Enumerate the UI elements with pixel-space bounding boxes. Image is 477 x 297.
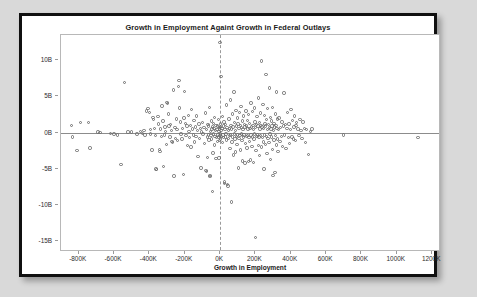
- scatter-point: [205, 170, 208, 173]
- scatter-point: [211, 151, 214, 154]
- scatter-point: [196, 155, 199, 158]
- scatter-point: [260, 59, 263, 62]
- scatter-point: [237, 166, 240, 169]
- scatter-point: [252, 137, 255, 140]
- scatter-point: [295, 121, 298, 124]
- scatter-point: [201, 132, 204, 135]
- chart-frame: Growth in Employment Againt Growth in Fe…: [19, 13, 437, 277]
- x-tick-label: -600K: [104, 255, 121, 262]
- scatter-point: [175, 128, 178, 131]
- x-tick-mark: [184, 251, 185, 254]
- x-axis-ticks: -800K-600K-400K-200K0K200K400K600K800K10…: [60, 251, 440, 265]
- scatter-point: [152, 118, 155, 121]
- scatter-point: [203, 142, 206, 145]
- scatter-point: [304, 141, 307, 144]
- scatter-point: [219, 75, 222, 78]
- scatter-point: [150, 148, 153, 151]
- scatter-point: [274, 112, 277, 115]
- x-tick-label: 400K: [282, 255, 297, 262]
- scatter-point: [163, 133, 166, 136]
- y-tick-label: -15B: [39, 237, 53, 244]
- scatter-point: [275, 143, 278, 146]
- scatter-point: [254, 236, 257, 239]
- scatter-point: [273, 171, 276, 174]
- y-tick-mark: [55, 204, 58, 205]
- scatter-point: [79, 121, 82, 124]
- scatter-point: [176, 139, 179, 142]
- y-tick-mark: [55, 240, 58, 241]
- scatter-point: [182, 116, 185, 119]
- scatter-point: [294, 139, 297, 142]
- y-tick-mark: [55, 132, 58, 133]
- scatter-point: [199, 166, 202, 169]
- scatter-point: [235, 143, 238, 146]
- scatter-point: [271, 148, 274, 151]
- scatter-point: [154, 134, 157, 137]
- scatter-point: [238, 111, 241, 114]
- scatter-point: [178, 106, 181, 109]
- x-tick-label: -800K: [69, 255, 86, 262]
- scatter-point: [265, 152, 268, 155]
- scatter-point: [342, 133, 345, 136]
- x-tick-mark: [360, 251, 361, 254]
- scatter-point: [263, 114, 266, 117]
- scatter-point: [226, 184, 229, 187]
- scatter-point: [236, 116, 239, 119]
- scatter-point: [416, 136, 419, 139]
- x-tick-mark: [219, 251, 220, 254]
- scatter-point: [70, 124, 73, 127]
- scatter-point: [192, 119, 195, 122]
- scatter-point: [261, 103, 264, 106]
- x-tick-mark: [290, 251, 291, 254]
- scatter-point: [251, 110, 254, 113]
- scatter-point: [271, 106, 274, 109]
- x-tick-label: 200K: [247, 255, 262, 262]
- scatter-point: [181, 127, 184, 130]
- scatter-point: [183, 90, 186, 93]
- scatter-point: [146, 107, 149, 110]
- scatter-point: [283, 133, 286, 136]
- x-tick-mark: [78, 251, 79, 254]
- scatter-point: [88, 146, 91, 149]
- y-tick-label: -5B: [42, 164, 52, 171]
- scatter-point: [135, 132, 138, 135]
- scatter-point: [286, 111, 289, 114]
- scatter-point: [262, 167, 265, 170]
- scatter-point: [264, 73, 267, 76]
- scatter-point: [201, 121, 204, 124]
- scatter-point: [289, 108, 292, 111]
- x-axis-title: Growth in Employment: [60, 264, 440, 271]
- scatter-point: [221, 115, 224, 118]
- scatter-point: [149, 132, 152, 135]
- x-tick-mark: [113, 251, 114, 254]
- scatter-point: [240, 139, 243, 142]
- scatter-point: [187, 114, 190, 117]
- scatter-point: [300, 137, 303, 140]
- scatter-point: [162, 165, 165, 168]
- scatter-point: [175, 117, 178, 120]
- scatter-point: [172, 88, 175, 91]
- scatter-point: [271, 174, 274, 177]
- scatter-point: [301, 120, 304, 123]
- scatter-point: [229, 98, 232, 101]
- scatter-point: [288, 142, 291, 145]
- scatter-point: [275, 90, 278, 93]
- scatter-point: [269, 158, 272, 161]
- scatter-point: [87, 121, 90, 124]
- x-tick-mark: [396, 251, 397, 254]
- scatter-point: [156, 115, 159, 118]
- chart-screenshot: Growth in Employment Againt Growth in Fe…: [0, 0, 477, 297]
- scatter-point: [233, 137, 236, 140]
- x-tick-mark: [325, 251, 326, 254]
- scatter-point: [232, 153, 235, 156]
- scatter-point: [195, 114, 198, 117]
- scatter-point: [159, 127, 162, 130]
- scatter-point: [289, 128, 292, 131]
- scatter-point: [239, 148, 242, 151]
- scatter-point: [71, 135, 74, 138]
- plot-area: [60, 34, 440, 251]
- scatter-point: [225, 103, 228, 106]
- scatter-point: [75, 149, 78, 152]
- scatter-point: [261, 136, 264, 139]
- scatter-point: [299, 129, 302, 132]
